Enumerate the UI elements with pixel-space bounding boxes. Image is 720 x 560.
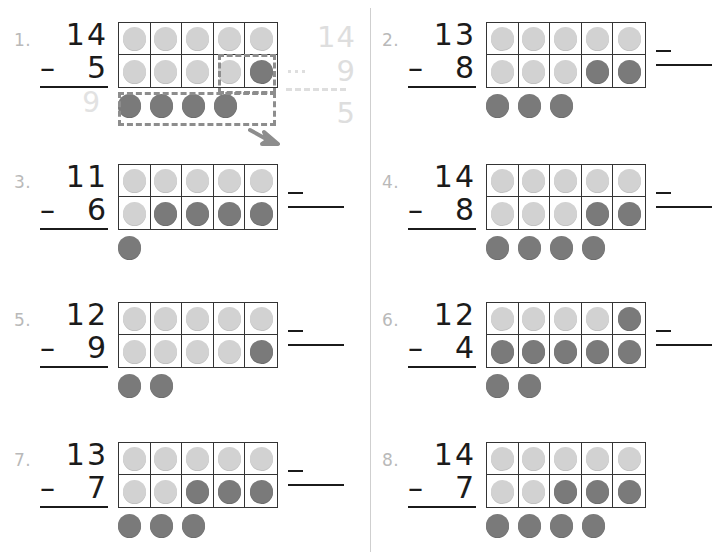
ten-frame-cell[interactable] [182, 335, 214, 367]
ten-frame-cell[interactable] [151, 475, 183, 507]
answer-blank[interactable] [288, 470, 350, 486]
answer-slot[interactable]: 9 [40, 88, 108, 118]
counter-light [522, 307, 545, 330]
ten-frame-cell[interactable] [245, 165, 277, 197]
ten-frame-cell[interactable] [245, 197, 277, 229]
ten-frame-cell[interactable] [214, 197, 246, 229]
ten-frame-cell[interactable] [613, 197, 645, 229]
ten-frame-cell[interactable] [613, 335, 645, 367]
ten-frame-cell[interactable] [519, 335, 551, 367]
ten-frame-cell[interactable] [214, 335, 246, 367]
ten-frame-cell[interactable] [245, 475, 277, 507]
ten-frame-cell[interactable] [613, 55, 645, 87]
ten-frame-cell[interactable] [182, 55, 214, 87]
ten-frame-cell[interactable] [214, 475, 246, 507]
ten-frame-cell[interactable] [519, 55, 551, 87]
ten-frame-cell[interactable] [151, 443, 183, 475]
ten-frame-cell[interactable] [245, 335, 277, 367]
answer-slot[interactable] [408, 88, 476, 118]
ten-frame-cell[interactable] [182, 443, 214, 475]
answer-blank[interactable] [656, 50, 718, 66]
ten-frame-cell[interactable] [245, 23, 277, 55]
answer-blank-line[interactable] [288, 484, 344, 486]
ten-frame-cell[interactable] [245, 303, 277, 335]
ten-frame-cell[interactable] [119, 165, 151, 197]
ten-frame-cell[interactable] [582, 23, 614, 55]
answer-slot[interactable] [408, 368, 476, 398]
answer-blank-line[interactable] [656, 206, 712, 208]
ten-frame-cell[interactable] [550, 165, 582, 197]
ten-frame-cell[interactable] [214, 23, 246, 55]
ten-frame-cell[interactable] [245, 443, 277, 475]
ten-frame-cell[interactable] [613, 303, 645, 335]
ten-frame-cell[interactable] [487, 303, 519, 335]
ten-frame-cell[interactable] [582, 55, 614, 87]
ten-frame-cell[interactable] [182, 165, 214, 197]
answer-slot[interactable] [40, 508, 108, 538]
ten-frame-cell[interactable] [519, 197, 551, 229]
answer-blank[interactable] [288, 192, 350, 208]
minuend: 13 [408, 18, 476, 51]
ten-frame-cell[interactable] [582, 335, 614, 367]
ten-frame-cell[interactable] [119, 23, 151, 55]
ten-frame-cell[interactable] [613, 23, 645, 55]
ten-frame-cell[interactable] [119, 303, 151, 335]
ten-frame-cell[interactable] [613, 443, 645, 475]
answer-slot[interactable] [408, 508, 476, 538]
ten-frame-cell[interactable] [613, 165, 645, 197]
answer-slot[interactable] [408, 230, 476, 260]
ten-frame-cell[interactable] [550, 55, 582, 87]
ten-frame-cell[interactable] [550, 23, 582, 55]
ten-frame-cell[interactable] [582, 303, 614, 335]
answer-blank-line[interactable] [288, 344, 344, 346]
ten-frame-cell[interactable] [151, 197, 183, 229]
ten-frame-cell[interactable] [119, 335, 151, 367]
ten-frame-cell[interactable] [214, 165, 246, 197]
ten-frame-cell[interactable] [550, 335, 582, 367]
ten-frame-cell[interactable] [119, 443, 151, 475]
ten-frame-cell[interactable] [182, 197, 214, 229]
ten-frame-cell[interactable] [519, 23, 551, 55]
ten-frame-cell[interactable] [582, 197, 614, 229]
answer-blank[interactable] [656, 330, 718, 346]
ten-frame-cell[interactable] [487, 335, 519, 367]
ten-frame-cell[interactable] [519, 475, 551, 507]
ten-frame-cell[interactable] [550, 303, 582, 335]
ten-frame-cell[interactable] [519, 165, 551, 197]
ten-frame-cell[interactable] [119, 197, 151, 229]
ten-frame-cell[interactable] [151, 55, 183, 87]
ten-frame-cell[interactable] [487, 443, 519, 475]
answer-blank-line[interactable] [288, 206, 344, 208]
ten-frame-cell[interactable] [182, 303, 214, 335]
ten-frame-cell[interactable] [613, 475, 645, 507]
ten-frame-cell[interactable] [182, 475, 214, 507]
ten-frame-cell[interactable] [550, 443, 582, 475]
ten-frame-cell[interactable] [487, 165, 519, 197]
ten-frame-cell[interactable] [519, 303, 551, 335]
ten-frame-cell[interactable] [550, 475, 582, 507]
ten-frame-cell[interactable] [582, 443, 614, 475]
ten-frame-cell[interactable] [487, 23, 519, 55]
answer-blank[interactable] [288, 330, 350, 346]
ten-frame-cell[interactable] [487, 197, 519, 229]
ten-frame-cell[interactable] [582, 475, 614, 507]
ten-frame-cell[interactable] [214, 443, 246, 475]
ten-frame-cell[interactable] [151, 335, 183, 367]
ten-frame-cell[interactable] [151, 23, 183, 55]
ten-frame-cell[interactable] [119, 55, 151, 87]
ten-frame-cell[interactable] [582, 165, 614, 197]
answer-blank-line[interactable] [656, 64, 712, 66]
ten-frame-cell[interactable] [519, 443, 551, 475]
ten-frame-cell[interactable] [119, 475, 151, 507]
ten-frame-cell[interactable] [550, 197, 582, 229]
ten-frame-cell[interactable] [151, 303, 183, 335]
answer-slot[interactable] [40, 368, 108, 398]
answer-slot[interactable] [40, 230, 108, 260]
ten-frame-cell[interactable] [182, 23, 214, 55]
answer-blank-line[interactable] [656, 344, 712, 346]
ten-frame-cell[interactable] [487, 55, 519, 87]
ten-frame-cell[interactable] [151, 165, 183, 197]
ten-frame-cell[interactable] [487, 475, 519, 507]
ten-frame-cell[interactable] [214, 303, 246, 335]
answer-blank[interactable] [656, 192, 718, 208]
